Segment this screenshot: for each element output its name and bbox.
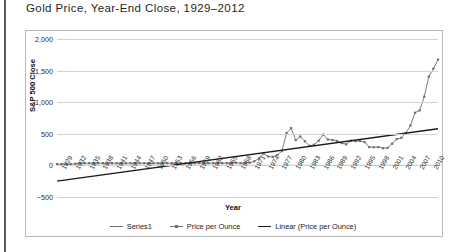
y-tick-label: 0 [49,161,53,170]
legend-label: Linear (Price per Ounce) [275,222,356,231]
data-point-marker [396,138,398,140]
data-point-marker [290,127,292,129]
legend-line-icon [110,223,123,230]
gridline [57,71,438,72]
data-point-marker [423,96,425,98]
legend-label: Price per Ounce [187,222,240,231]
data-point-marker [432,68,434,70]
y-tick-label: 1,500 [35,66,53,75]
data-point-marker [382,147,384,149]
legend-item-price-per-ounce[interactable]: Price per Ounce [170,222,240,231]
gridline [57,102,438,103]
page-edge-rule [4,0,6,252]
gridline [57,39,438,40]
data-point-marker [304,140,306,142]
data-point-marker [331,139,333,141]
data-point-marker [428,75,430,77]
data-point-marker [419,109,421,111]
legend-label: Series1 [127,222,152,231]
data-point-marker [437,58,439,60]
chart-title: Gold Price, Year-End Close, 1929–2012 [26,2,245,14]
data-point-marker [377,146,379,148]
data-point-marker [409,124,411,126]
data-point-marker [363,141,365,143]
legend-trendline-icon [258,223,271,230]
data-point-marker [336,140,338,142]
data-point-marker [400,137,402,139]
data-point-marker [318,140,320,142]
data-point-marker [373,146,375,148]
legend-item-series1[interactable]: Series1 [110,222,152,231]
legend-line-marker-icon [170,223,183,230]
data-point-marker [391,143,393,145]
data-point-marker [299,135,301,137]
y-tick-label: 1,000 [35,98,53,107]
y-tick-label: 2,000 [35,35,53,44]
y-tick-label: −500 [37,193,53,202]
data-point-marker [267,155,269,157]
series-price-per-ounce-markers [56,58,439,165]
series-price-per-ounce-line [57,60,438,165]
data-point-marker [414,112,416,114]
x-tick-labels: 1929193219351938194119441947195019531956… [57,167,438,201]
y-tick-label: 500 [41,129,53,138]
data-point-marker [295,139,297,141]
data-point-marker [386,147,388,149]
x-axis-title: Year [0,203,466,212]
chart-legend: Series1 Price per Ounce Linear (Price pe… [0,222,466,231]
data-point-marker [345,143,347,145]
data-point-marker [368,146,370,148]
data-point-marker [327,138,329,140]
gridline [57,134,438,135]
legend-item-linear-trendline[interactable]: Linear (Price per Ounce) [258,222,356,231]
